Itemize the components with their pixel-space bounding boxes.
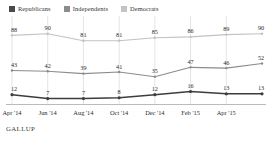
data-point[interactable] [118, 71, 120, 73]
value-label-democrats: 90 [258, 25, 264, 31]
source-attribution: GALLUP [6, 126, 35, 133]
value-label-republicans: 12 [11, 86, 17, 92]
data-point[interactable] [189, 90, 192, 93]
data-point[interactable] [154, 37, 156, 39]
data-point[interactable] [46, 97, 49, 100]
data-point[interactable] [189, 66, 191, 68]
value-label-republicans: 13 [223, 85, 229, 91]
data-point[interactable] [225, 33, 227, 35]
data-point[interactable] [153, 93, 156, 96]
x-tick-label: Aug '14 [73, 110, 93, 116]
x-tick-label: Apr '14 [2, 110, 21, 116]
x-tick-label: Oct '14 [110, 110, 128, 116]
value-label-independents: 41 [116, 64, 122, 70]
value-label-independents: 46 [223, 60, 229, 66]
legend-label-democrats: Democrats [130, 6, 159, 12]
value-label-independents: 35 [152, 68, 158, 74]
value-label-republicans: 7 [46, 90, 49, 96]
data-point[interactable] [47, 33, 49, 35]
gallup-line-chart: Republicans Independents Democrats 88908… [0, 0, 272, 142]
data-point[interactable] [260, 92, 263, 95]
legend-item-democrats[interactable]: Democrats [121, 6, 159, 12]
value-label-independents: 43 [11, 62, 17, 68]
value-label-democrats: 90 [45, 25, 51, 31]
plot-svg [0, 16, 272, 106]
data-point[interactable] [225, 67, 227, 69]
value-label-republicans: 7 [82, 90, 85, 96]
legend-label-republicans: Republicans [18, 6, 51, 12]
square-swatch-icon [64, 6, 70, 12]
value-label-republicans: 16 [187, 83, 193, 89]
data-point[interactable] [82, 40, 84, 42]
data-point[interactable] [82, 97, 85, 100]
value-label-democrats: 89 [223, 26, 229, 32]
data-point[interactable] [261, 62, 263, 64]
x-tick-label: Apr '15 [217, 110, 236, 116]
data-point[interactable] [118, 96, 121, 99]
legend-label-independents: Independents [73, 6, 108, 12]
x-tick-label: Jun '14 [39, 110, 57, 116]
data-point[interactable] [11, 69, 13, 71]
value-label-democrats: 85 [152, 29, 158, 35]
value-label-independents: 52 [258, 55, 264, 61]
legend-item-independents[interactable]: Independents [64, 6, 108, 12]
legend-item-republicans[interactable]: Republicans [9, 6, 51, 12]
data-point[interactable] [261, 33, 263, 35]
chart-legend: Republicans Independents Democrats [9, 3, 172, 15]
x-tick-label: Feb '15 [181, 110, 200, 116]
value-label-democrats: 81 [80, 32, 86, 38]
data-point[interactable] [118, 40, 120, 42]
value-label-democrats: 86 [187, 28, 193, 34]
value-label-republicans: 8 [118, 89, 121, 95]
data-point[interactable] [82, 72, 84, 74]
data-point[interactable] [47, 70, 49, 72]
square-swatch-icon [9, 6, 15, 12]
data-point[interactable] [189, 36, 191, 38]
square-swatch-icon [121, 6, 127, 12]
value-label-democrats: 81 [116, 32, 122, 38]
data-point[interactable] [154, 76, 156, 78]
value-label-independents: 47 [187, 59, 193, 65]
data-point[interactable] [10, 93, 13, 96]
value-label-independents: 39 [80, 65, 86, 71]
plot-area: 8890818185868990434239413547465212778121… [0, 16, 272, 106]
x-tick-label: Dec '14 [145, 110, 164, 116]
data-point[interactable] [11, 34, 13, 36]
series-line-democrats [12, 34, 262, 41]
value-label-independents: 42 [45, 63, 51, 69]
data-point[interactable] [225, 92, 228, 95]
series-line-republicans [12, 92, 262, 99]
x-axis: Apr '14Jun '14Aug '14Oct '14Dec '14Feb '… [0, 106, 272, 122]
value-label-republicans: 12 [152, 86, 158, 92]
value-label-republicans: 13 [258, 85, 264, 91]
value-label-democrats: 88 [11, 27, 17, 33]
